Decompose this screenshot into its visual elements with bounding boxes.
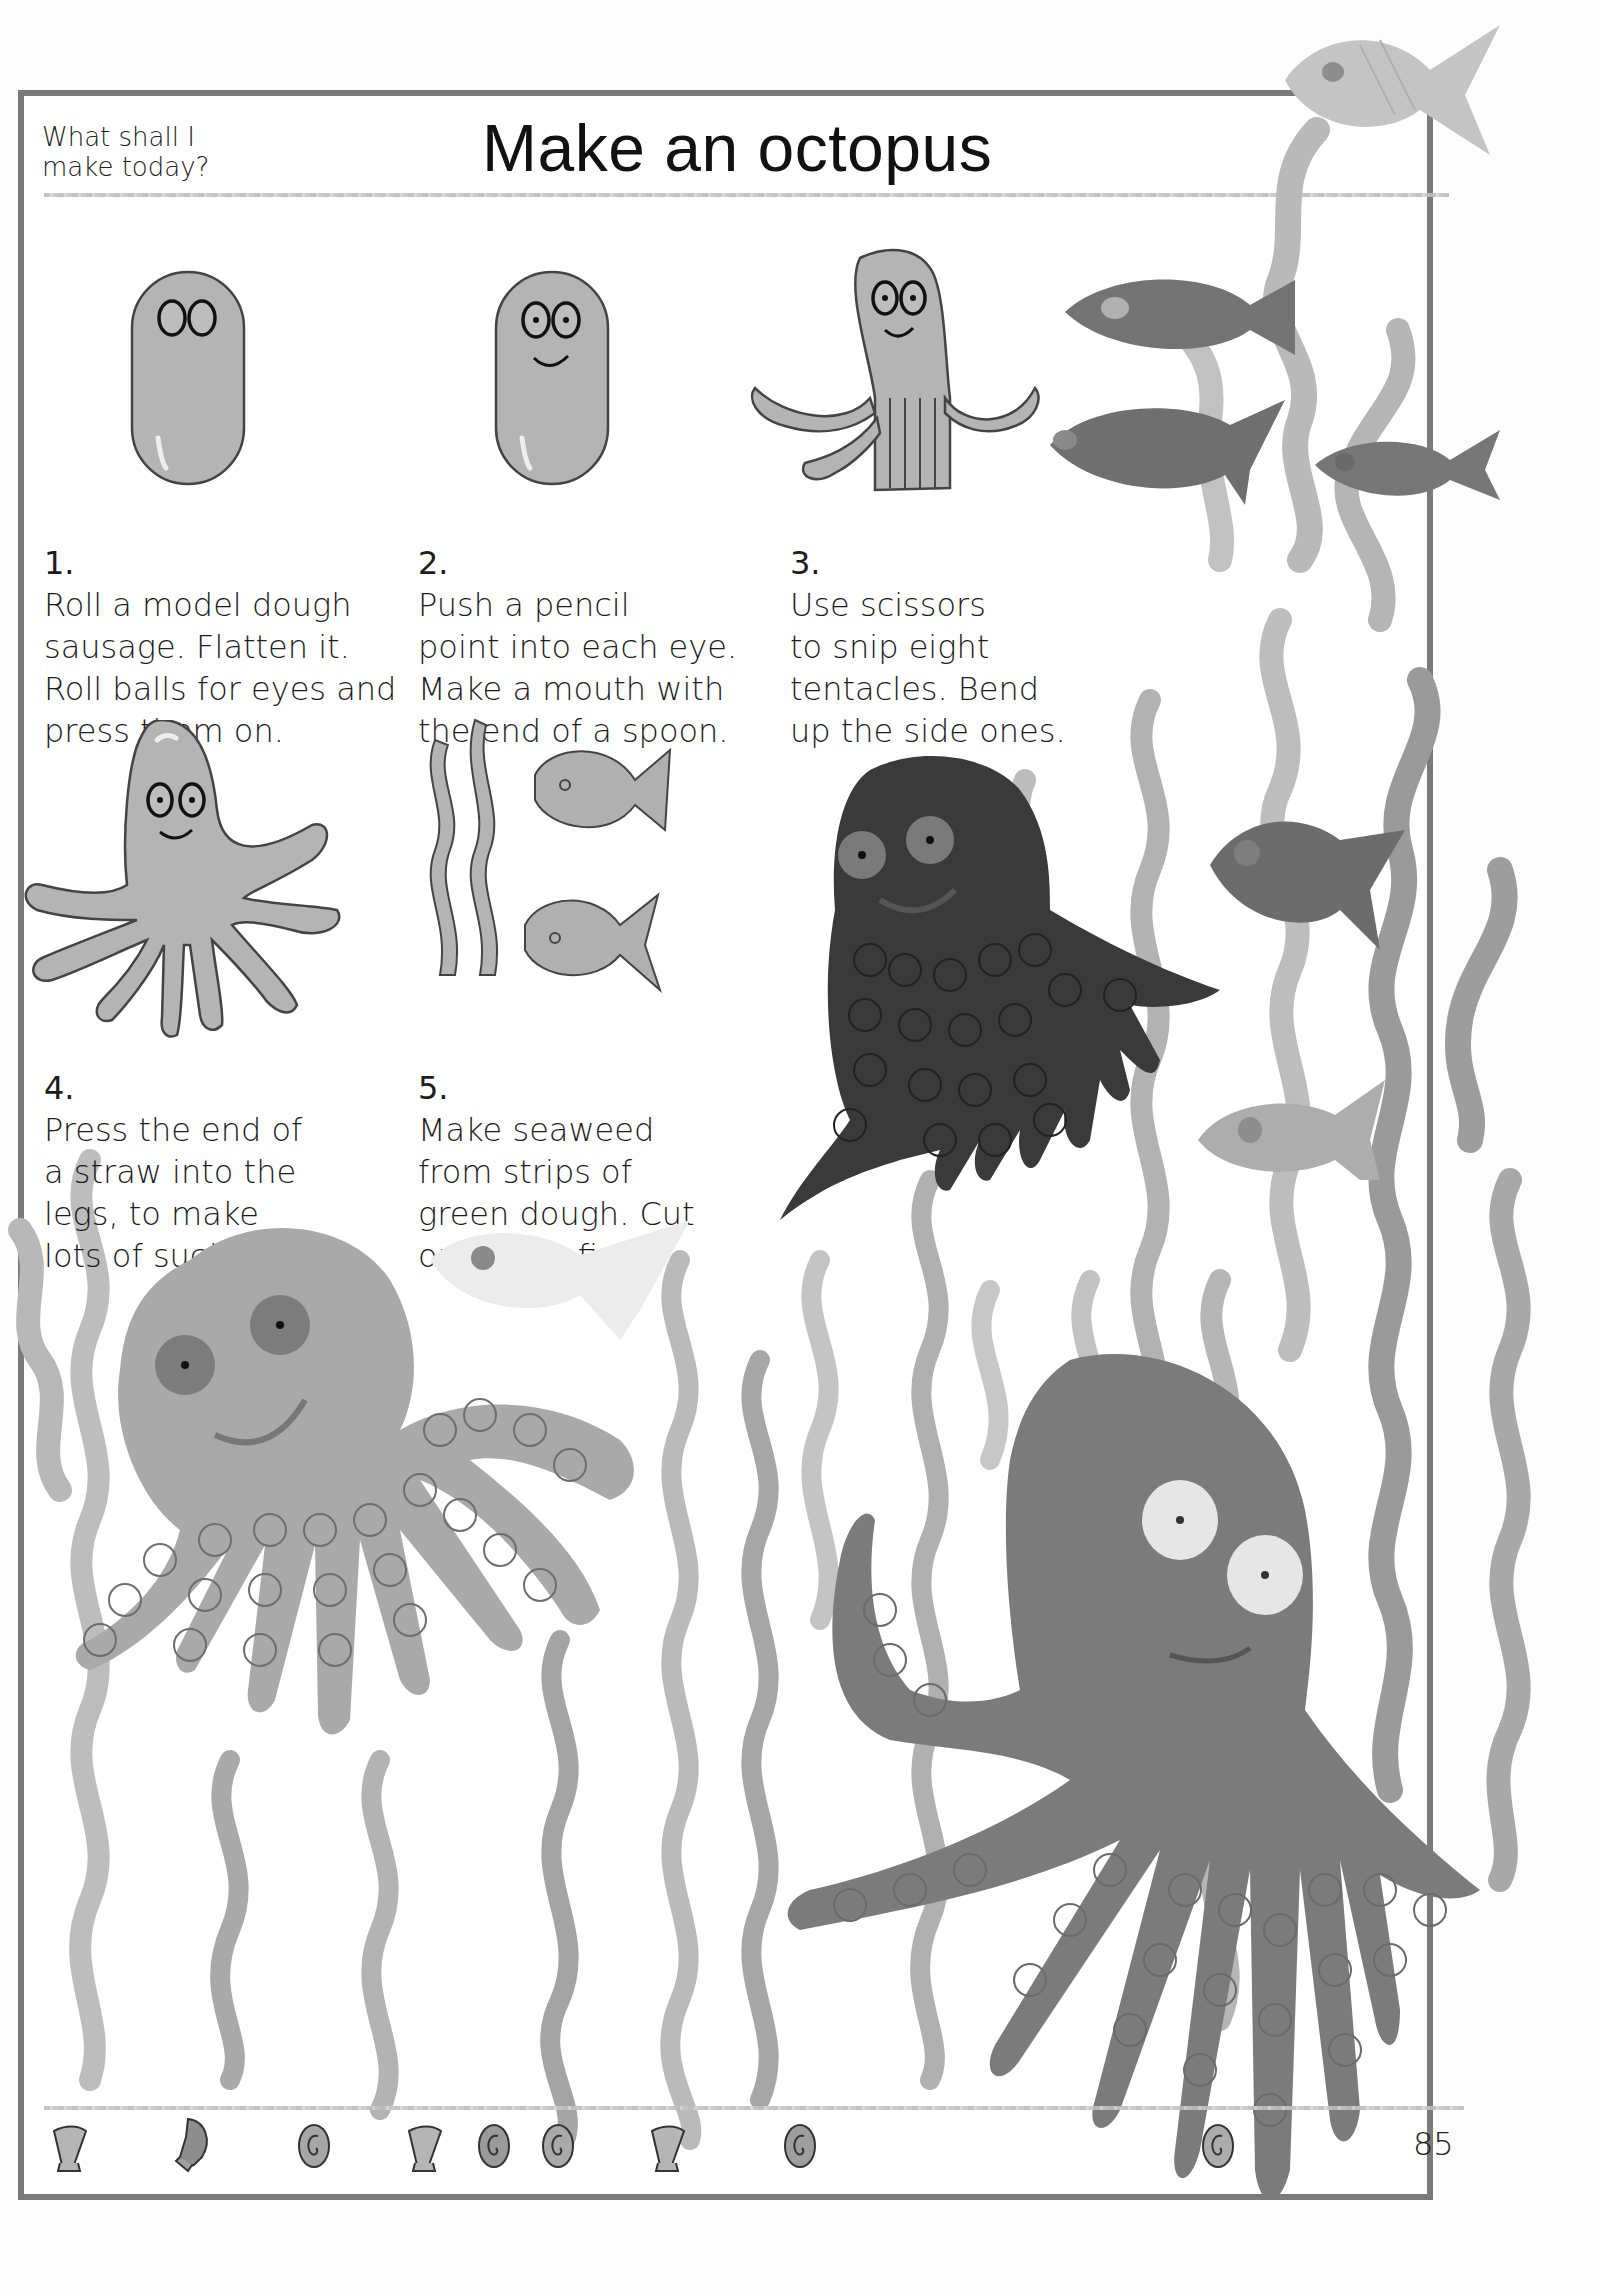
page-number: 85 <box>1413 2125 1454 2163</box>
fish-outline-bottom <box>525 895 660 990</box>
scallop-shell-icon <box>50 2125 90 2173</box>
light-fish-top <box>1285 25 1500 155</box>
step-1-text: 1. Roll a model dough sausage. Flatten i… <box>44 500 396 752</box>
dark-fish-3 <box>1315 430 1500 500</box>
dark-fish-2 <box>1050 400 1285 505</box>
step-3-number: 3. <box>790 544 821 582</box>
spiral-shell-icon <box>296 2122 332 2170</box>
step-3-illustration <box>745 248 1045 498</box>
spiral-shell-icon <box>540 2122 576 2170</box>
step-5-illustration <box>420 700 690 1000</box>
step-1-illustration <box>128 268 248 488</box>
conch-shell-icon <box>172 2117 212 2173</box>
step-4-illustration <box>12 720 342 1040</box>
white-fish <box>430 1220 690 1340</box>
step-3-body: Use scissors to snip eight tentacles. Be… <box>790 586 1066 750</box>
spiral-shell-icon <box>782 2122 818 2170</box>
photo-dark-octopus <box>720 740 1240 1260</box>
scallop-shell-icon <box>405 2125 445 2173</box>
photo-large-octopus <box>600 1330 1500 2230</box>
spiral-shell-icon <box>1200 2122 1236 2170</box>
fish-outline-top <box>535 750 670 830</box>
step-2-number: 2. <box>418 544 449 582</box>
scallop-shell-icon <box>648 2125 688 2173</box>
step-2-illustration <box>492 268 612 488</box>
photo-light-octopus <box>0 1200 700 1840</box>
dark-fish-1 <box>1065 280 1295 355</box>
step-4-number: 4. <box>44 1069 75 1107</box>
footer-divider <box>44 2106 1464 2110</box>
spiral-shell-icon <box>476 2122 512 2170</box>
step-3-text: 3. Use scissors to snip eight tentacles.… <box>790 500 1066 752</box>
step-1-number: 1. <box>44 544 75 582</box>
step-5-number: 5. <box>418 1069 449 1107</box>
